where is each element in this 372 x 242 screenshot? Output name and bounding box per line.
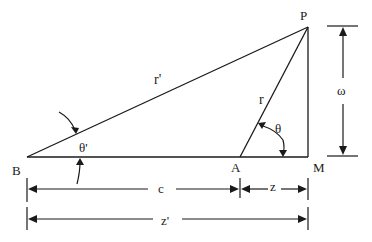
arrowhead-right-icon [230,185,239,193]
label-z-prime: z' [161,213,169,228]
arrowhead-right-icon [298,185,307,193]
label-m: M [313,160,325,175]
arrowhead-left-icon [241,185,250,193]
arrowhead-icon [279,150,287,157]
arrowhead-left-icon [28,215,37,223]
label-r-prime: r' [154,72,161,87]
label-theta: θ [275,121,281,136]
arrowhead-right-icon [298,215,307,223]
segment-ap [240,27,308,157]
label-omega: ω [337,83,346,98]
label-z: z [270,179,276,194]
triangle-diagram: P B A M r' r θ' θ ω c z z' [0,0,372,242]
label-p: P [300,8,307,23]
label-c: c [158,181,164,196]
label-b: B [12,163,21,178]
arrowhead-icon [76,158,84,165]
angle-arc-lower-icon [77,162,80,184]
segment-bp [27,27,308,157]
arrowhead-icon [258,122,266,129]
arrowhead-left-icon [28,185,37,193]
arrowhead-up-icon [339,27,347,36]
arrowhead-down-icon [339,146,347,155]
label-theta-prime: θ' [79,140,88,155]
label-a: A [231,160,241,175]
label-r: r [259,92,264,107]
